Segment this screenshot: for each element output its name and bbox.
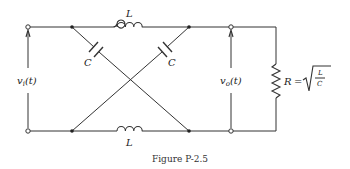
- inductor-top-label: L: [125, 8, 133, 19]
- capacitor-left-plate-b: [94, 47, 103, 57]
- junction-top-left: [70, 25, 74, 29]
- resistor: [272, 27, 280, 131]
- output-terminal-top: [229, 25, 233, 29]
- junction-top-right: [187, 25, 191, 29]
- input-voltage-label: vi(t): [17, 75, 37, 88]
- capacitor-left-label: C: [84, 57, 92, 68]
- inductor-coil-icon: [113, 20, 147, 28]
- inductor-bottom-label: L: [125, 137, 133, 148]
- input-terminal-bottom: [26, 129, 30, 133]
- resistor-label: R: [283, 76, 292, 87]
- equals-sign: =: [294, 76, 302, 87]
- output-terminal-bottom: [229, 129, 233, 133]
- inductor-bottom: L: [113, 127, 147, 149]
- capacitor-right-label: C: [168, 57, 176, 68]
- capacitor-right-plate-b: [158, 47, 167, 57]
- resistor-zigzag-icon: [272, 64, 280, 98]
- output-voltage-indicator: vo(t): [220, 30, 242, 128]
- input-voltage-indicator: vi(t): [17, 30, 37, 128]
- formula-numerator: L: [317, 69, 323, 77]
- resistor-formula: R = L C: [283, 66, 331, 91]
- inductor-coil-icon: [113, 127, 147, 132]
- formula-denominator: C: [317, 80, 323, 88]
- junction-bottom-left: [70, 129, 74, 133]
- output-voltage-label: vo(t): [220, 75, 242, 88]
- junction-bottom-right: [187, 129, 191, 133]
- inductor-top: L: [113, 8, 147, 28]
- lattice-network-diagram: L L C C vi(t) v: [0, 0, 350, 169]
- figure-caption: Figure P-2.5: [152, 154, 208, 164]
- input-terminal-top: [26, 25, 30, 29]
